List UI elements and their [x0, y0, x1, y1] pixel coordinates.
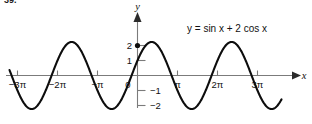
x-axis-arrowhead [292, 72, 301, 80]
y-tick-label-neg2: −2 [150, 100, 161, 111]
y-intercept-marker-dot [135, 43, 140, 48]
y-tick-label-neg1: −1 [150, 85, 161, 96]
x-axis-label: x [301, 70, 307, 81]
problem-number-label: 39. [4, 0, 17, 5]
y-axis-arrowhead [134, 12, 142, 22]
x-tick-label-2pi: 2π [212, 79, 224, 90]
figure-container: 39. −3π −2π −π 0 π 2π 3π 2 1 −1 −2 [0, 0, 312, 124]
graph-canvas: −3π −2π −π 0 π 2π 3π 2 1 −1 −2 x y y = s… [0, 0, 312, 124]
y-tick-label-2: 2 [127, 40, 132, 51]
y-tick-label-1: 1 [127, 55, 132, 66]
equation-annotation: y = sin x + 2 cos x [187, 23, 267, 34]
x-tick-label-neg2pi: −2π [49, 79, 67, 90]
y-axis-label: y [134, 1, 140, 12]
